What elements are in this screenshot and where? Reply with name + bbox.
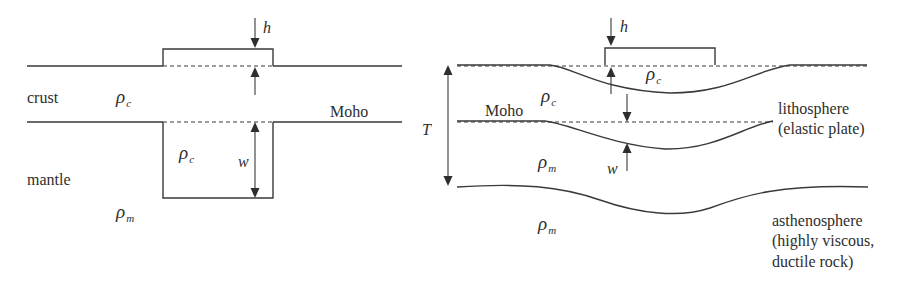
rho-c-root-label: ρc: [178, 142, 194, 165]
elastic-plate-label: (elastic plate): [778, 120, 865, 138]
deflected-surface: [457, 65, 867, 93]
t-arrow-down-icon: [444, 176, 453, 186]
t-arrow-up-icon: [444, 65, 453, 75]
h-label-right: h: [620, 18, 628, 35]
rho-m-label-left: ρm: [115, 201, 134, 224]
moho-label-right: Moho: [485, 102, 523, 119]
rho-c-load-label: ρc: [645, 63, 661, 86]
crust-label: crust: [27, 89, 59, 106]
isostasy-diagram: h crust ρc Moho ρc w mantle ρm: [0, 0, 910, 291]
h-arrow-down-icon-right: [607, 36, 616, 46]
h-arrow-up-icon: [251, 67, 260, 77]
mantle-label: mantle: [27, 171, 71, 188]
load-block: [605, 48, 715, 65]
w-arrow-up-icon: [251, 122, 260, 132]
rho-m-asthenosphere-label: ρm: [537, 213, 556, 236]
right-panel-flexure: h ρc ρc Moho w ρm T ρm: [422, 18, 874, 271]
w-label-right: w: [607, 160, 618, 177]
w-arrow-down-icon: [251, 188, 260, 198]
asthenosphere-label: asthenosphere: [772, 212, 863, 230]
lithosphere-label: lithosphere: [778, 100, 849, 118]
h-label-left: h: [263, 19, 271, 36]
t-label: T: [422, 121, 432, 138]
h-arrow-down-icon: [251, 38, 260, 48]
deflected-moho: [457, 121, 773, 149]
w-label-left: w: [238, 153, 249, 170]
rho-m-plate-label: ρm: [537, 151, 556, 174]
left-panel-airy: h crust ρc Moho ρc w mantle ρm: [27, 18, 402, 224]
h-arrow-up-icon-right: [607, 67, 616, 77]
moho-label-left: Moho: [330, 103, 368, 120]
rho-c-plate-label: ρc: [540, 85, 556, 108]
lithosphere-base: [457, 185, 868, 213]
topography-block: [163, 49, 273, 66]
highly-viscous-label: (highly viscous,: [772, 232, 874, 250]
ductile-rock-label: ductile rock): [772, 253, 853, 271]
moho-arrow-down-icon: [623, 112, 632, 122]
rho-c-crust-label: ρc: [115, 86, 131, 109]
